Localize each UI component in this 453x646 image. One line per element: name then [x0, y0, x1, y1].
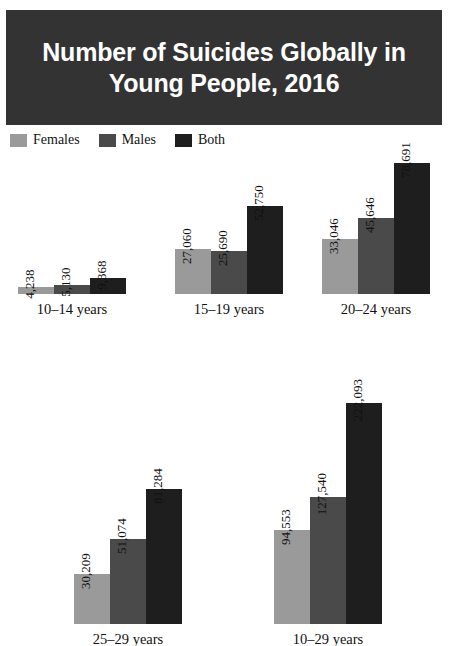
title-banner: Number of Suicides Globally in Young Peo… [6, 10, 442, 125]
bar-both: 9,368 [90, 278, 126, 294]
bar-value-label: 94,553 [279, 509, 292, 545]
page-title: Number of Suicides Globally in Young Peo… [42, 37, 406, 98]
bar-value-label: 52,750 [252, 185, 265, 221]
bar-group: 94,553127,540222,093 [274, 403, 382, 624]
bar-value-label: 9,368 [95, 260, 108, 289]
legend-item-females: Females [10, 133, 80, 147]
chart-panel-10-14: 4,2385,1309,36810–14 years [6, 160, 138, 316]
bar-females: 33,046 [322, 239, 358, 294]
bar-females: 27,060 [175, 249, 211, 294]
panel-axis-label: 10–29 years [262, 632, 394, 646]
bar-value-label: 27,060 [180, 228, 193, 264]
bar-rect [146, 489, 182, 624]
bar-value-label: 127,540 [315, 473, 328, 515]
bar-both: 52,750 [247, 206, 283, 294]
chart-panel-10-29: 94,553127,540222,09310–29 years [262, 350, 394, 646]
bar-value-label: 30,209 [79, 553, 92, 589]
bar-value-label: 45,646 [363, 197, 376, 233]
chart-legend: Females Males Both [10, 133, 244, 147]
panel-axis-label: 20–24 years [310, 302, 442, 317]
bar-value-label: 33,046 [327, 218, 340, 254]
legend-label-males: Males [122, 133, 156, 147]
legend-label-both: Both [198, 133, 225, 147]
bar-value-label: 81,284 [151, 468, 164, 504]
bar-rect [394, 163, 430, 294]
legend-swatch-females [10, 134, 27, 147]
bar-value-label: 25,690 [216, 230, 229, 266]
panel-axis-label: 10–14 years [6, 302, 138, 317]
chart-panel-25-29: 30,20951,07481,28425–29 years [62, 350, 194, 646]
bar-both: 222,093 [346, 403, 382, 624]
bar-value-label: 5,130 [59, 267, 72, 296]
bar-rect [310, 497, 346, 624]
bar-group: 4,2385,1309,368 [18, 278, 126, 294]
bar-males: 45,646 [358, 218, 394, 294]
bar-males: 51,074 [110, 539, 146, 624]
bar-rect [346, 403, 382, 624]
bar-group: 27,06025,69052,750 [175, 206, 283, 294]
legend-item-both: Both [175, 133, 225, 147]
bar-males: 5,130 [54, 285, 90, 294]
bar-group: 30,20951,07481,284 [74, 489, 182, 624]
bar-group: 33,04645,64678,691 [322, 163, 430, 294]
bar-value-label: 4,238 [23, 269, 36, 298]
bar-value-label: 222,093 [351, 379, 364, 421]
panel-axis-label: 15–19 years [163, 302, 295, 317]
legend-swatch-males [99, 134, 116, 147]
legend-label-females: Females [33, 133, 80, 147]
legend-swatch-both [175, 134, 192, 147]
bar-both: 78,691 [394, 163, 430, 294]
bar-value-label: 51,074 [115, 518, 128, 554]
chart-panel-20-24: 33,04645,64678,69120–24 years [310, 160, 442, 316]
bar-value-label: 78,691 [399, 142, 412, 178]
bar-both: 81,284 [146, 489, 182, 624]
bar-females: 4,238 [18, 287, 54, 294]
bar-females: 30,209 [74, 574, 110, 624]
chart-panel-15-19: 27,06025,69052,75015–19 years [163, 160, 295, 316]
bar-males: 25,690 [211, 251, 247, 294]
bar-females: 94,553 [274, 530, 310, 624]
bar-males: 127,540 [310, 497, 346, 624]
panel-axis-label: 25–29 years [62, 632, 194, 646]
legend-item-males: Males [99, 133, 156, 147]
